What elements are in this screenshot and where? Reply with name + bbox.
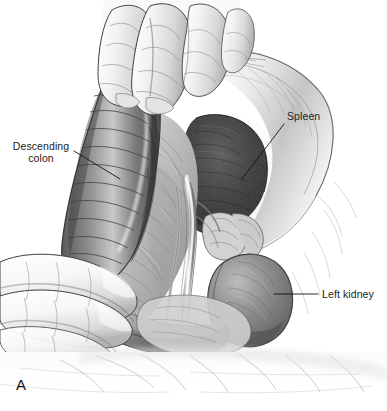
panel-letter: A <box>16 376 26 393</box>
label-descending-colon: Descending colon <box>8 140 74 164</box>
splenic-flexure-shape <box>203 213 264 260</box>
figure-panel: Descending colon Spleen Left kidney A <box>0 0 387 411</box>
surgical-drape-shape <box>0 346 387 411</box>
label-spleen: Spleen <box>287 110 320 122</box>
surgical-illustration <box>0 0 387 411</box>
label-left-kidney: Left kidney <box>322 288 374 300</box>
